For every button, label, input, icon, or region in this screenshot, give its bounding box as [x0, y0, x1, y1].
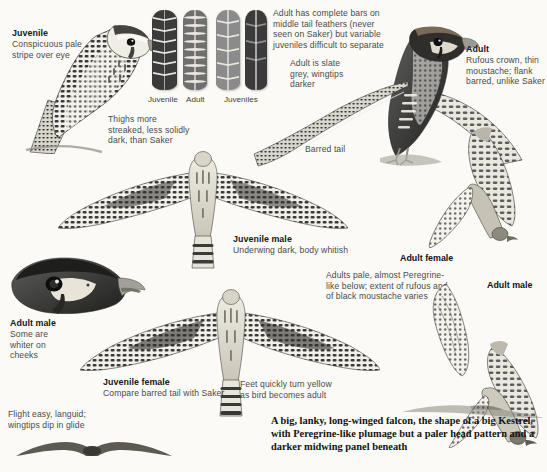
caption-juvenile-male: Juvenile male Underwing dark, body whiti…: [233, 234, 363, 256]
caption-adult-male-flight-heading: Adult male: [487, 280, 532, 291]
caption-juvenile-female-body: Compare barred tail with Saker: [103, 388, 224, 398]
feather-juvenile-c: [245, 10, 267, 90]
caption-feet: Feet quickly turn yellow as bird becomes…: [240, 379, 352, 400]
caption-juvenile-female: Juvenile female Compare barred tail with…: [103, 377, 243, 399]
feather-label-juvenile: Juvenile: [148, 95, 178, 104]
caption-juvenile-perched-body: Conspicuous pale stripe over eye: [12, 39, 82, 60]
caption-adult-tail-body: Adult has complete bars on middle tail f…: [273, 8, 384, 50]
caption-adult-female-heading: Adult female: [400, 253, 453, 264]
feather-shaft: [227, 10, 228, 90]
feather-juvenile-b: [216, 10, 240, 90]
feather-juvenile: [152, 10, 177, 90]
caption-adult-male-head-body: Some are whiter on cheeks: [10, 329, 48, 360]
caption-adult-perched-body: Rufous crown, thin moustache; flank barr…: [466, 55, 545, 86]
caption-adult-perched-heading: Adult: [466, 44, 546, 55]
caption-thighs: Thighs more streaked, less solidly dark,…: [108, 114, 210, 146]
caption-juvenile-perched: Juvenile Conspicuous pale stripe over ey…: [12, 28, 104, 60]
caption-adult-perched: Adult Rufous crown, thin moustache; flan…: [466, 44, 546, 87]
feather-shaft: [164, 10, 165, 90]
caption-adult-male-head-heading: Adult male: [10, 318, 76, 329]
feather-shaft: [255, 10, 256, 90]
feather-adult: [183, 10, 207, 90]
caption-juvenile-female-heading: Juvenile female: [103, 377, 243, 388]
caption-thighs-body: Thighs more streaked, less solidly dark,…: [108, 114, 190, 145]
caption-flight: Flight easy, languid; wingtips dip in gl…: [8, 409, 120, 430]
adult-female-flight-upperside: [408, 126, 540, 248]
caption-juvenile-male-heading: Juvenile male: [233, 234, 363, 245]
caption-juvenile-male-body: Underwing dark, body whitish: [233, 245, 348, 255]
caption-feet-body: Feet quickly turn yellow as bird becomes…: [240, 379, 332, 400]
caption-juvenile-perched-heading: Juvenile: [12, 28, 104, 39]
field-guide-plate: Juvenile Conspicuous pale stripe over ey…: [0, 0, 547, 472]
caption-flight-body: Flight easy, languid; wingtips dip in gl…: [8, 409, 86, 430]
summary-text: A big, lanky, long-winged falcon, the sh…: [271, 414, 535, 454]
feather-label-adult: Adult: [186, 95, 204, 104]
gliding-silhouette: [14, 434, 174, 466]
caption-adult-male-head: Adult male Some are whiter on cheeks: [10, 318, 76, 361]
